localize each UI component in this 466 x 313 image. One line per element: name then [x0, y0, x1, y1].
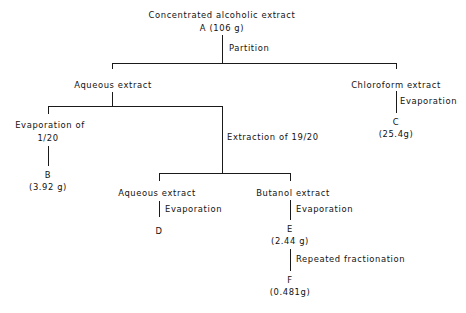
aqueous-extract-node: Aqueous extract — [74, 80, 152, 90]
edge-label-butanol-evaporation: Evaporation — [296, 204, 353, 214]
edge-label-aqueous-evaporation: Evaporation — [165, 204, 222, 214]
evaporation-fraction-value: 1/20 — [37, 133, 58, 143]
connector-line — [48, 146, 49, 166]
root-node-amount: A (106 g) — [200, 23, 244, 33]
edge-label-chloroform-evaporation: Evaporation — [400, 96, 457, 106]
edge-label-repeated-fractionation: Repeated fractionation — [296, 254, 405, 264]
chloroform-extract-node: Chloroform extract — [351, 80, 441, 90]
product-f-amount: (0.481g) — [270, 287, 311, 297]
product-b-label: B — [45, 170, 51, 180]
connector-line — [112, 92, 113, 106]
connector-line — [396, 63, 397, 69]
butanol-extract-node: Butanol extract — [256, 188, 330, 198]
evaporation-fraction-node: Evaporation of — [15, 120, 85, 130]
connector-line — [222, 106, 223, 173]
connector-line — [290, 249, 291, 271]
edge-label-extraction: Extraction of 19/20 — [227, 132, 319, 142]
connector-line — [290, 173, 291, 181]
split-bar — [112, 63, 397, 64]
connector-line — [48, 106, 49, 114]
aqueous-extract-node-2: Aqueous extract — [118, 188, 196, 198]
product-b-amount: (3.92 g) — [29, 182, 67, 192]
split-bar — [159, 173, 291, 174]
product-e-label: E — [287, 224, 293, 234]
product-c-label: C — [393, 117, 399, 127]
root-node-label: Concentrated alcoholic extract — [149, 10, 296, 20]
product-e-amount: (2.44 g) — [271, 236, 309, 246]
product-f-label: F — [287, 275, 292, 285]
product-c-amount: (25.4g) — [379, 129, 414, 139]
product-d-label: D — [155, 226, 162, 236]
connector-line — [222, 35, 223, 63]
connector-line — [396, 91, 397, 113]
connector-line — [290, 200, 291, 220]
connector-line — [159, 173, 160, 181]
connector-line — [159, 201, 160, 217]
connector-line — [112, 63, 113, 69]
split-bar — [48, 106, 223, 107]
edge-label-partition: Partition — [229, 43, 269, 53]
